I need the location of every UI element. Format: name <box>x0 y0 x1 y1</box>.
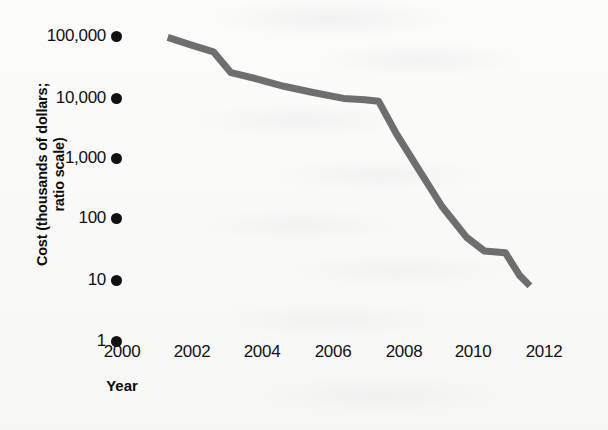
data-series-line <box>0 0 608 430</box>
cost-log-line-chart: Cost (thousands of dollars; ratio scale)… <box>0 0 608 430</box>
